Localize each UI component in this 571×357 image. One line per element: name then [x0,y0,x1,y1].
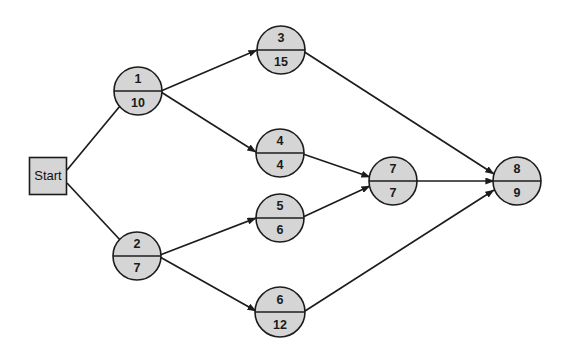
node-2-id-label: 2 [134,237,141,251]
node-6-id-label: 6 [277,293,284,307]
node-1-id-label: 1 [135,72,142,86]
node-3-id-label: 3 [278,31,285,45]
node-1[interactable]: 110 [114,67,162,115]
node-2-duration-label: 7 [134,261,141,275]
node-7-id-label: 7 [390,162,397,176]
node-5-duration-label: 6 [277,223,284,237]
edge-n5-to-n7 [303,186,370,217]
node-2[interactable]: 27 [113,232,161,280]
node-8[interactable]: 89 [493,157,541,205]
node-6[interactable]: 612 [255,287,305,337]
edge-n2-to-n6 [160,257,256,311]
node-1-duration-label: 10 [131,96,145,110]
node-3-duration-label: 15 [274,55,288,69]
node-3[interactable]: 315 [257,26,305,74]
edge-start-to-n2 [67,183,122,242]
node-8-id-label: 8 [514,162,521,176]
node-6-duration-label: 12 [273,318,287,332]
edge-n3-to-n8 [303,51,494,174]
start-node-label: Start [34,168,62,183]
node-5-id-label: 5 [277,199,284,213]
start-node[interactable]: Start [30,158,67,195]
diagram-canvas: Start1102731544566127789 [0,0,571,357]
edge-n4-to-n7 [303,154,370,177]
node-8-duration-label: 9 [514,186,521,200]
node-4-id-label: 4 [277,134,284,148]
edge-n2-to-n5 [160,218,256,255]
node-5[interactable]: 56 [256,194,304,242]
node-4-duration-label: 4 [277,158,284,172]
edge-n1-to-n4 [161,92,256,152]
node-4[interactable]: 44 [256,129,304,177]
node-7[interactable]: 77 [369,157,417,205]
edge-start-to-n1 [67,106,120,170]
edge-n1-to-n3 [161,50,257,91]
node-7-duration-label: 7 [390,186,397,200]
network-diagram: Start1102731544566127789 [0,0,571,357]
edge-n6-to-n8 [305,190,494,311]
